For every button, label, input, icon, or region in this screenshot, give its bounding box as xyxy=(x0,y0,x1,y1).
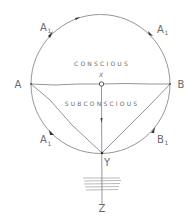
svg-text:1: 1 xyxy=(165,29,169,36)
center-point-x xyxy=(99,82,103,86)
conscious-subconscious-diagram: CONSCIOUS X SUBCONSCIOUS A B Y Z A 1 A 1… xyxy=(0,0,192,223)
arrow-icon-vertical xyxy=(101,118,103,123)
svg-text:B: B xyxy=(157,134,164,145)
label-a1-top-left: A 1 xyxy=(40,22,52,34)
label-subconscious: SUBCONSCIOUS xyxy=(65,100,140,107)
label-conscious: CONSCIOUS xyxy=(74,60,130,67)
label-b: B xyxy=(178,79,185,90)
label-x: X xyxy=(98,71,104,78)
svg-text:1: 1 xyxy=(48,27,52,34)
svg-text:A: A xyxy=(157,24,164,35)
label-a1-bottom-left: A 1 xyxy=(40,134,52,147)
svg-text:1: 1 xyxy=(165,139,169,146)
svg-text:A: A xyxy=(40,22,47,33)
label-y: Y xyxy=(103,157,111,168)
point-y-marker xyxy=(101,152,104,155)
arrow-icon-top-mid xyxy=(75,17,80,20)
arrow-icon-top-right xyxy=(148,31,153,36)
label-a: A xyxy=(15,79,22,90)
label-b1-bottom-right: B 1 xyxy=(157,134,169,146)
point-b-marker xyxy=(169,83,171,85)
label-a1-top-right: A 1 xyxy=(157,24,169,36)
point-a-marker xyxy=(30,83,32,85)
svg-text:A: A xyxy=(40,134,47,145)
arrow-icon-bottom-left xyxy=(49,130,54,135)
label-z: Z xyxy=(99,203,106,214)
svg-text:1: 1 xyxy=(48,140,52,147)
